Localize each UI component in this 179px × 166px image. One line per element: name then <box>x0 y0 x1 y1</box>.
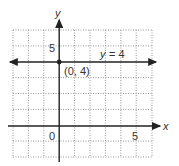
y-tick-label-5: 5 <box>49 42 55 54</box>
x-axis-label: x <box>162 120 169 132</box>
origin-label: 0 <box>49 130 55 142</box>
point-0-4 <box>57 60 62 65</box>
y-axis-label: y <box>54 7 62 19</box>
coordinate-plane: y x 5 0 5 y = 4 (0, 4) <box>0 0 179 166</box>
point-label: (0, 4) <box>64 65 90 77</box>
x-tick-label-5: 5 <box>132 130 138 142</box>
line-label-eq: = 4 <box>109 48 125 60</box>
